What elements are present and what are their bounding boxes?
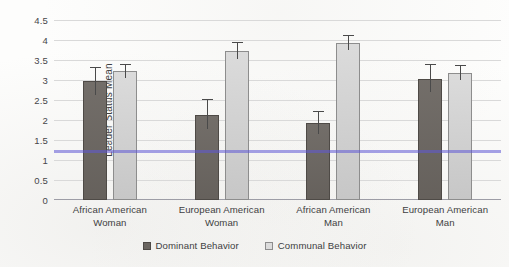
y-axis-tick-label: 0: [43, 195, 48, 206]
error-bar-stem-group-1-series-1: [95, 67, 96, 95]
legend-swatch-dominant: [143, 242, 151, 250]
x-axis-label-line: European American: [389, 204, 501, 217]
plot-area: Leader Status Mean 00.511.522.533.544.5: [54, 20, 501, 200]
legend-label: Communal Behavior: [278, 240, 367, 251]
x-axis-label-line: African American: [278, 204, 390, 217]
legend-item-2[interactable]: Communal Behavior: [265, 240, 367, 251]
error-bar-cap-upper-group-1-series-2: [120, 64, 131, 65]
error-bar-stem-group-3-series-1: [318, 111, 319, 134]
error-bar-stem-group-3-series-2: [348, 35, 349, 51]
gridline: [54, 20, 501, 21]
error-bar-cap-upper-group-4-series-1: [425, 64, 436, 65]
error-bar-cap-upper-group-3-series-2: [343, 35, 354, 36]
x-axis-label-group-3: African AmericanMan: [278, 204, 390, 229]
error-bar-cap-upper-group-2-series-1: [202, 99, 213, 100]
error-bar-stem-group-1-series-2: [125, 64, 126, 78]
gridline: [54, 60, 501, 61]
x-axis-labels: African AmericanWomanEuropean AmericanWo…: [54, 202, 501, 236]
error-bar-stem-group-2-series-2: [237, 42, 238, 59]
y-axis-tick-label: 1.5: [34, 135, 48, 146]
error-bar-cap-upper-group-3-series-1: [313, 111, 324, 112]
x-axis-label-line: Man: [389, 217, 501, 230]
error-bar-stem-group-4-series-2: [460, 65, 461, 81]
y-axis-tick-label: 3: [43, 75, 48, 86]
y-axis-tick-label: 0.5: [34, 175, 48, 186]
x-axis-label-line: Woman: [54, 217, 166, 230]
error-bar-cap-upper-group-1-series-1: [90, 67, 101, 68]
x-axis-label-group-4: European AmericanMan: [389, 204, 501, 229]
x-axis-label-line: European American: [166, 204, 278, 217]
y-axis-tick-label: 3.5: [34, 55, 48, 66]
gridline: [54, 40, 501, 41]
bar-dominant-group-4: [418, 79, 442, 200]
legend-swatch-communal: [265, 242, 273, 250]
x-axis-label-line: African American: [54, 204, 166, 217]
bar-communal-group-4: [448, 73, 472, 200]
error-bar-stem-group-4-series-1: [430, 64, 431, 92]
y-axis-tick-label: 2: [43, 115, 48, 126]
x-axis-label-group-2: European AmericanWoman: [166, 204, 278, 229]
bar-communal-group-1: [113, 71, 137, 200]
y-axis-tick-label: 4.5: [34, 15, 48, 26]
y-axis-tick-label: 2.5: [34, 95, 48, 106]
bar-communal-group-3: [336, 43, 360, 200]
legend-label: Dominant Behavior: [156, 240, 239, 251]
y-axis-tick-label: 4: [43, 35, 48, 46]
x-axis-label-group-1: African AmericanWoman: [54, 204, 166, 229]
y-axis-tick-label: 1: [43, 155, 48, 166]
x-axis-label-line: Man: [278, 217, 390, 230]
bar-dominant-group-1: [83, 81, 107, 200]
leader-status-bar-chart: Leader Status Mean 00.511.522.533.544.5 …: [0, 0, 509, 267]
chart-legend: Dominant BehaviorCommunal Behavior: [0, 240, 509, 251]
x-axis-label-line: Woman: [166, 217, 278, 230]
legend-item-1[interactable]: Dominant Behavior: [143, 240, 239, 251]
error-bar-cap-upper-group-2-series-2: [232, 42, 243, 43]
error-bar-stem-group-2-series-1: [207, 99, 208, 129]
error-bar-cap-upper-group-4-series-2: [455, 65, 466, 66]
bar-communal-group-2: [225, 51, 249, 200]
bar-dominant-group-3: [306, 123, 330, 200]
